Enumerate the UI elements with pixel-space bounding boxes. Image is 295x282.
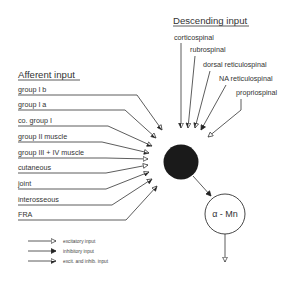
- legend: excitatory input inhibitory input excit.…: [28, 239, 109, 264]
- afferent-label-group-ia: group I a: [18, 100, 46, 109]
- legend-mixed-label: excit. and inhib. input: [63, 259, 109, 264]
- descending-label-dorsal-reticulospinal: dorsal reticulospinal: [203, 60, 267, 69]
- arrow-interneuron-to-motoneuron: [193, 176, 211, 196]
- arrow-group-iii-iv-muscle: [18, 158, 148, 159]
- descending-input-group: Descending input corticospinal rubrospin…: [173, 15, 278, 137]
- afferent-label-cutaneous: cutaneous: [18, 163, 52, 172]
- descending-label-na-reticulospinal: NA reticulospinal: [219, 74, 273, 83]
- afferent-label-group-ii-muscle: group II muscle: [18, 132, 67, 141]
- spinal-interneuron-diagram: Descending input corticospinal rubrospin…: [0, 0, 295, 282]
- arrow-dorsal-reticulospinal: [195, 71, 210, 128]
- afferent-label-group-ib: group I b: [18, 85, 46, 94]
- afferent-input-group: Afferent input group I b group I a co. g…: [17, 69, 162, 220]
- afferent-label-interosseous: interosseous: [18, 195, 59, 204]
- interneuron-node: [164, 145, 199, 180]
- motoneuron-label: α - Mn: [212, 209, 238, 219]
- legend-inhibitory-label: inhibitory input: [63, 249, 95, 254]
- arrow-propriospinal: [208, 99, 241, 137]
- descending-label-propriospinal: propriospinal: [236, 88, 278, 97]
- descending-label-rubrospinal: rubrospinal: [190, 45, 226, 54]
- afferent-label-joint: joint: [17, 179, 31, 188]
- afferent-label-fra: FRA: [18, 210, 33, 219]
- descending-label-corticospinal: corticospinal: [174, 33, 214, 42]
- legend-excitatory-label: excitatory input: [63, 239, 96, 244]
- descending-input-header: Descending input: [173, 15, 247, 26]
- afferent-label-co-group-i: co. group I: [18, 116, 52, 125]
- motoneuron-node: α - Mn: [205, 194, 245, 234]
- afferent-label-group-iii-iv-muscle: group III + IV muscle: [18, 148, 84, 157]
- arrow-rubrospinal: [188, 56, 195, 128]
- afferent-input-header: Afferent input: [18, 69, 75, 80]
- arrow-joint: [18, 172, 149, 189]
